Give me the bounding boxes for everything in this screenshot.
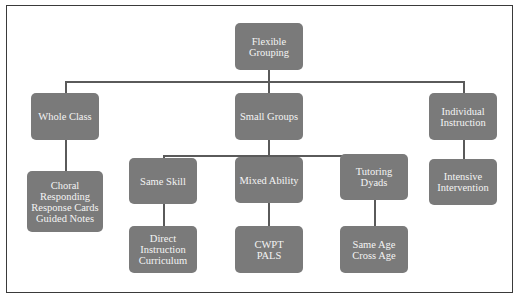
connector-to-individual: [463, 81, 465, 93]
connector-root-down: [268, 70, 270, 81]
connector-small-groups-down: [268, 140, 270, 155]
node-individual-instruction: Individual Instruction: [429, 93, 497, 140]
connector-whole-class-down: [65, 140, 67, 171]
node-mixed-ability: Mixed Ability: [235, 157, 303, 203]
node-flexible-grouping: Flexible Grouping: [235, 23, 303, 70]
connector-tutoring-down: [374, 200, 376, 226]
connector-level1-bar: [65, 81, 464, 83]
node-cwpt-pals: CWPT PALS: [235, 226, 303, 273]
connector-mixed-ability-down: [268, 203, 270, 226]
node-whole-class: Whole Class: [31, 93, 99, 140]
node-same-cross-age: Same Age Cross Age: [340, 226, 408, 273]
node-small-groups: Small Groups: [235, 93, 303, 140]
connector-to-whole-class: [65, 81, 67, 93]
connector-individual-down: [463, 140, 465, 159]
node-tutoring-dyads: Tutoring Dyads: [340, 154, 408, 200]
connector-to-small-groups: [268, 81, 270, 93]
connector-same-skill-down: [163, 204, 165, 226]
node-same-skill: Same Skill: [129, 158, 197, 204]
node-choral-responding: Choral Responding Response Cards Guided …: [27, 171, 103, 232]
node-intensive-intervention: Intensive Intervention: [429, 159, 497, 205]
node-direct-instruction: Direct Instruction Curriculum: [129, 226, 197, 273]
